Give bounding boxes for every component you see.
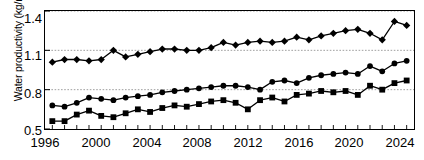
x-tick-label-7: 2024 xyxy=(375,136,424,149)
series-diamond-marker-25 xyxy=(354,26,361,33)
series-diamond-marker-14 xyxy=(220,39,227,46)
series-circle-marker-2 xyxy=(74,100,80,106)
series-square-marker-6 xyxy=(123,110,129,116)
series-circle-marker-15 xyxy=(233,83,239,89)
series-square-marker-2 xyxy=(74,112,80,118)
series-diamond-marker-21 xyxy=(305,36,312,43)
series-diamond-marker-11 xyxy=(183,47,190,54)
series-square-marker-0 xyxy=(49,118,55,124)
y-axis-ticks xyxy=(45,11,50,129)
series-circle-marker-7 xyxy=(135,93,141,99)
series-diamond-marker-10 xyxy=(171,45,178,52)
series-diamond-marker-22 xyxy=(318,32,325,39)
gridlines xyxy=(45,11,414,90)
series-diamond-marker-17 xyxy=(256,38,263,45)
series-square-marker-29 xyxy=(404,78,410,84)
series-diamond-marker-18 xyxy=(269,39,276,46)
series-circle-marker-25 xyxy=(355,71,361,77)
series-diamond-marker-1 xyxy=(61,56,68,63)
y-tick-label-2: 1.1 xyxy=(8,49,42,62)
series-diamond-marker-2 xyxy=(73,56,80,63)
series-diamond-marker-27 xyxy=(379,36,386,43)
series-diamond-marker-12 xyxy=(195,47,202,54)
series-square-marker-13 xyxy=(208,99,214,105)
x-tick-label-2: 2004 xyxy=(122,136,172,149)
series-circle-marker-29 xyxy=(404,58,410,64)
series-circle-marker-22 xyxy=(318,72,324,78)
series-circle-marker-20 xyxy=(294,80,300,86)
series-diamond-marker-15 xyxy=(232,41,239,48)
series-square-marker-18 xyxy=(269,95,275,101)
series-circle-marker-14 xyxy=(220,83,226,89)
series-diamond-marker-0 xyxy=(49,59,56,66)
series-diamond-marker-28 xyxy=(391,18,398,25)
series-diamond-marker-16 xyxy=(244,39,251,46)
series-diamond xyxy=(49,18,411,66)
series-circle-marker-1 xyxy=(62,104,68,110)
series-square-marker-20 xyxy=(294,92,300,98)
series-circle-marker-21 xyxy=(306,75,312,81)
series-circle-marker-26 xyxy=(367,63,373,69)
series-square-marker-14 xyxy=(220,97,226,103)
series-square-marker-26 xyxy=(367,83,373,89)
x-tick-label-6: 2020 xyxy=(324,136,374,149)
series-diamond-marker-20 xyxy=(293,34,300,41)
series-square-marker-9 xyxy=(159,105,165,111)
x-tick-label-3: 2008 xyxy=(172,136,222,149)
series-square-marker-25 xyxy=(355,92,361,98)
series-square-marker-3 xyxy=(86,108,92,114)
series-diamond-line xyxy=(52,21,406,62)
series-circle-marker-6 xyxy=(123,95,129,101)
data-series-layer xyxy=(49,18,411,124)
series-square-marker-23 xyxy=(330,89,336,95)
series-circle-marker-16 xyxy=(245,84,251,90)
series-circle-line xyxy=(52,61,406,107)
x-tick-label-4: 2012 xyxy=(223,136,273,149)
series-square-marker-7 xyxy=(135,106,141,112)
series-square xyxy=(49,78,409,124)
series-diamond-marker-19 xyxy=(281,38,288,45)
series-square-marker-19 xyxy=(282,99,288,105)
series-diamond-marker-3 xyxy=(85,57,92,64)
series-square-marker-15 xyxy=(233,100,239,106)
series-circle-marker-13 xyxy=(208,84,214,90)
series-square-marker-4 xyxy=(98,113,104,119)
series-square-marker-10 xyxy=(172,103,178,109)
series-square-marker-21 xyxy=(306,91,312,97)
series-diamond-marker-9 xyxy=(159,45,166,52)
series-square-line xyxy=(52,80,406,121)
series-circle-marker-28 xyxy=(392,61,398,67)
series-circle-marker-0 xyxy=(49,103,55,109)
x-tick-label-5: 2016 xyxy=(274,136,324,149)
series-circle-marker-12 xyxy=(196,85,202,91)
series-square-marker-5 xyxy=(111,114,117,120)
series-diamond-marker-23 xyxy=(330,30,337,37)
series-diamond-marker-6 xyxy=(122,53,129,60)
series-circle-marker-5 xyxy=(111,97,117,103)
series-circle-marker-18 xyxy=(269,79,275,85)
series-circle-marker-8 xyxy=(147,92,153,98)
plot-canvas xyxy=(45,11,414,129)
series-diamond-marker-29 xyxy=(403,22,410,29)
series-circle-marker-19 xyxy=(282,78,288,84)
series-square-marker-22 xyxy=(318,88,324,94)
series-circle-marker-11 xyxy=(184,87,190,93)
plot-area xyxy=(44,10,415,130)
series-square-marker-1 xyxy=(62,118,68,124)
series-circle-marker-9 xyxy=(159,89,165,95)
series-circle-marker-23 xyxy=(330,71,336,77)
x-tick-label-1: 2000 xyxy=(71,136,121,149)
series-square-marker-28 xyxy=(392,80,398,86)
series-circle-marker-17 xyxy=(257,87,263,93)
series-square-marker-11 xyxy=(184,104,190,110)
series-circle-marker-24 xyxy=(343,70,349,76)
series-square-marker-16 xyxy=(245,106,251,112)
series-diamond-marker-7 xyxy=(134,51,141,58)
series-circle-marker-27 xyxy=(379,68,385,74)
x-tick-label-0: 1996 xyxy=(20,136,70,149)
water-productivity-chart: Water productivity (kg/m³) 1.4 1.1 0.8 0… xyxy=(0,0,424,160)
y-tick-label-3: 1.4 xyxy=(8,12,42,25)
series-circle-marker-10 xyxy=(172,88,178,94)
series-square-marker-12 xyxy=(196,101,202,107)
series-square-marker-8 xyxy=(147,109,153,115)
